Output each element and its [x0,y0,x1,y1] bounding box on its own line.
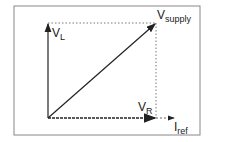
label-vl: VL [52,27,65,42]
label-vr: VR [138,101,153,116]
phasor-svg [0,0,236,142]
label-vsupply: Vsupply [157,9,191,24]
frame [14,6,200,135]
label-iref: Iref [174,121,188,136]
